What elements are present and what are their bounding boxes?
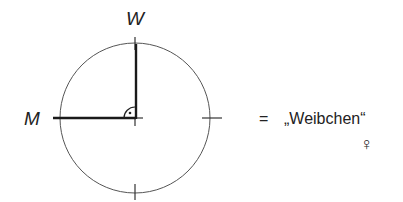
legend-text: „Weibchen“ bbox=[284, 110, 366, 127]
label-w: W bbox=[126, 8, 146, 29]
label-m: M bbox=[24, 108, 40, 129]
female-symbol-icon: ♀ bbox=[360, 134, 374, 154]
right-angle-dot bbox=[129, 112, 132, 115]
diagram-canvas: W M = „Weibchen“ ♀ bbox=[0, 0, 403, 202]
legend-equals: = bbox=[259, 110, 268, 127]
